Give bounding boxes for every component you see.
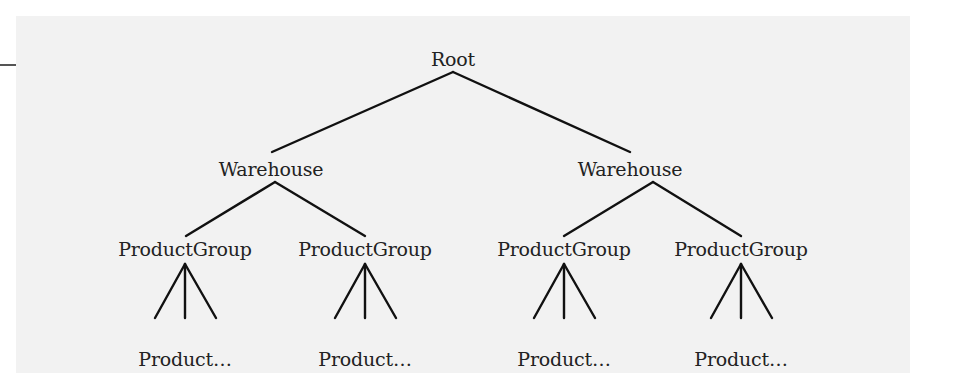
node-warehouse-left: Warehouse: [219, 160, 324, 179]
fan-group-4: [711, 264, 772, 318]
edge-warehouse-left-group-1: [186, 182, 275, 236]
node-product-group-1: ProductGroup: [118, 240, 252, 259]
fan-group-2: [335, 264, 396, 318]
fan-group-3: [534, 264, 595, 318]
node-product-group-3: ProductGroup: [497, 240, 631, 259]
node-product-4: Product…: [694, 350, 787, 369]
edge-warehouse-left-group-2: [275, 182, 365, 236]
node-product-group-2: ProductGroup: [298, 240, 432, 259]
fan-group-1: [155, 264, 216, 318]
node-product-group-4: ProductGroup: [674, 240, 808, 259]
node-product-3: Product…: [517, 350, 610, 369]
edge-root-warehouse-left: [272, 72, 453, 152]
edge-root-warehouse-right: [453, 72, 630, 152]
node-root: Root: [431, 50, 475, 69]
edge-warehouse-right-group-4: [653, 182, 741, 236]
node-product-1: Product…: [138, 350, 231, 369]
node-product-2: Product…: [318, 350, 411, 369]
tree-edges: [0, 0, 954, 385]
edge-warehouse-right-group-3: [564, 182, 653, 236]
node-warehouse-right: Warehouse: [578, 160, 683, 179]
